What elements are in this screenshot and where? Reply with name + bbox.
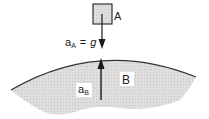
body-a-label: A xyxy=(114,10,122,22)
body-b-label: B xyxy=(122,73,130,87)
diagram-canvas: B aB A aA=g xyxy=(0,0,209,119)
acceleration-a-arrowhead-icon xyxy=(99,39,106,49)
acceleration-a-label: aA=g xyxy=(65,36,97,49)
